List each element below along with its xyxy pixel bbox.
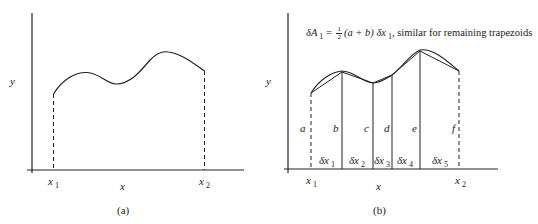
panel-a-x2-label: x2 bbox=[199, 176, 210, 187]
dx1-sub: 1 bbox=[331, 160, 335, 169]
panel-a-graphics bbox=[27, 13, 244, 173]
panel-b-caption: (b) bbox=[373, 205, 386, 216]
dx5-var: δx bbox=[432, 154, 442, 166]
height-label-d: d bbox=[384, 123, 390, 134]
formula-tail: , similar for remaining trapezoids bbox=[392, 27, 532, 38]
dx1-var: δx bbox=[319, 154, 329, 166]
panel-b-x-axis-label: x bbox=[376, 181, 381, 192]
panel-b-y-axis-label: y bbox=[266, 76, 271, 87]
panel-b-x1-label: x1 bbox=[306, 175, 317, 186]
formula-lhs-sub: 1 bbox=[319, 32, 323, 41]
height-label-e: e bbox=[412, 123, 417, 134]
panel-a-x2-var: x bbox=[199, 175, 204, 187]
dx2-sub: 2 bbox=[361, 160, 365, 169]
dx5-sub: 5 bbox=[444, 160, 448, 169]
height-label-b: b bbox=[333, 123, 339, 134]
formula-equals: = bbox=[326, 27, 332, 38]
panel-b-trapezoid-chords bbox=[311, 51, 459, 93]
panel-a-x1-label: x1 bbox=[48, 176, 59, 187]
panel-b-x1-var: x bbox=[306, 174, 311, 186]
panel-b-formula: δA1 = 12(a + b) δx1, similar for remaini… bbox=[306, 26, 532, 41]
panel-b-curve bbox=[311, 50, 459, 93]
formula-expression: (a + b) δx bbox=[344, 27, 386, 38]
formula-expr-sub: 1 bbox=[388, 32, 392, 41]
width-label-dx1: δx1 bbox=[319, 155, 335, 166]
height-label-a: a bbox=[300, 123, 306, 134]
panel-a-x1-var: x bbox=[48, 175, 53, 187]
formula-fraction: 12 bbox=[336, 26, 342, 41]
panel-a-curve bbox=[54, 52, 205, 94]
height-label-c: c bbox=[364, 123, 369, 134]
panel-b-x2-var: x bbox=[455, 174, 460, 186]
panel-a-x-axis-label: x bbox=[120, 181, 125, 192]
formula-frac-den: 2 bbox=[336, 34, 342, 41]
panel-a-y-axis-label: y bbox=[10, 76, 15, 87]
width-label-dx4: δx4 bbox=[397, 155, 413, 166]
width-label-dx5: δx5 bbox=[432, 155, 448, 166]
panel-b-x1-sub: 1 bbox=[313, 180, 317, 189]
dx3-var: δx bbox=[374, 154, 384, 166]
width-label-dx2: δx2 bbox=[349, 155, 365, 166]
panel-a-x1-sub: 1 bbox=[55, 181, 59, 190]
dx4-sub: 4 bbox=[409, 160, 413, 169]
panel-b-x2-label: x2 bbox=[455, 175, 466, 186]
formula-lhs: δA bbox=[306, 27, 317, 38]
dx4-var: δx bbox=[397, 154, 407, 166]
height-label-f: f bbox=[452, 123, 455, 134]
width-label-dx3: δx3 bbox=[374, 155, 390, 166]
panel-b-x2-sub: 2 bbox=[462, 180, 466, 189]
dx3-sub: 3 bbox=[386, 160, 390, 169]
dx2-var: δx bbox=[349, 154, 359, 166]
panel-a-caption: (a) bbox=[117, 205, 129, 216]
panel-a-x2-sub: 2 bbox=[206, 181, 210, 190]
